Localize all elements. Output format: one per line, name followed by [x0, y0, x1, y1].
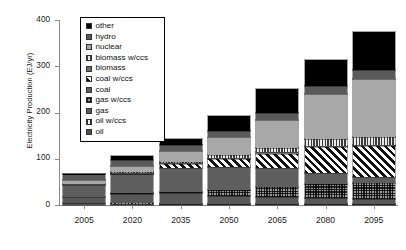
x-axis-tick-label: 2080 [302, 215, 350, 225]
bar-segment-nuclear [63, 180, 105, 185]
bar-segment-hydro [160, 145, 202, 151]
bar-2005 [63, 174, 105, 205]
legend-item-other: other [86, 21, 160, 32]
legend-swatch-icon [86, 108, 92, 114]
x-axis-tick-mark [181, 205, 182, 209]
legend-swatch-icon [86, 76, 92, 82]
bar-segment-other [256, 89, 298, 112]
legend-item-label: oil [96, 127, 104, 138]
bar-segment-biomass-w-ccs [160, 162, 202, 163]
bar-segment-gas-w-ccs [160, 192, 202, 194]
legend-swatch-icon [86, 97, 92, 103]
x-axis-tick-mark [374, 205, 375, 209]
bar-segment-other [111, 156, 153, 159]
bar-segment-gas-w-ccs [256, 187, 298, 197]
bar-segment-coal-w-ccs [160, 164, 202, 167]
legend-item-oil: oil [86, 127, 160, 138]
legend-item-label: coal [96, 85, 111, 96]
legend-item-coal: coal [86, 85, 160, 96]
legend-item-label: biomass w/ccs [96, 53, 149, 64]
bar-2095 [353, 32, 395, 205]
legend-item-coal-w-ccs: coal w/ccs [86, 74, 160, 85]
legend-item-label: other [96, 21, 114, 32]
legend-item-label: biomass [96, 63, 126, 74]
legend-swatch-icon [86, 23, 92, 29]
legend-swatch-icon [86, 87, 92, 93]
bar-segment-gas [208, 196, 250, 203]
legend-swatch-icon [86, 66, 92, 72]
bar-segment-coal [160, 168, 202, 192]
y-axis-tick-label: 400 [16, 15, 50, 24]
bar-segment-coal [63, 185, 105, 197]
legend-item-biomass: biomass [86, 63, 160, 74]
bar-segment-gas-w-ccs [111, 193, 153, 194]
legend-item-label: gas w/ccs [96, 95, 132, 106]
x-axis-tick-label: 2005 [60, 215, 108, 225]
bar-segment-hydro [353, 70, 395, 78]
bar-segment-biomass [256, 152, 298, 153]
bar-segment-biomass-w-ccs [353, 137, 395, 144]
chart-container: Electricity Production (EJ/yr) 010020030… [0, 0, 406, 250]
legend-swatch-icon [86, 55, 92, 61]
legend-item-gas: gas [86, 106, 160, 117]
bar-segment-coal-w-ccs [208, 159, 250, 166]
legend-item-gas-w-ccs: gas w/ccs [86, 95, 160, 106]
bar-segment-biomass-w-ccs [305, 139, 347, 145]
legend-item-label: hydro [96, 32, 116, 43]
bar-segment-biomass [160, 163, 202, 164]
legend-item-hydro: hydro [86, 32, 160, 43]
bar-segment-other [63, 174, 105, 175]
bar-2020 [111, 156, 153, 205]
bar-segment-nuclear [305, 94, 347, 139]
bar-segment-gas [63, 197, 105, 203]
legend-item-nuclear: nuclear [86, 42, 160, 53]
bar-segment-nuclear [256, 120, 298, 148]
legend-item-label: gas [96, 106, 109, 117]
y-axis-tick-label: 100 [16, 153, 50, 162]
bar-segment-coal [305, 173, 347, 184]
legend-swatch-icon [86, 129, 92, 135]
bar-segment-biomass [305, 146, 347, 147]
bar-segment-nuclear [353, 79, 395, 138]
bar-segment-hydro [208, 131, 250, 138]
bar-segment-gas [160, 193, 202, 203]
legend-swatch-icon [86, 34, 92, 40]
y-axis-tick-labels: 0100200300400 [0, 0, 58, 250]
x-axis-tick-label: 2050 [205, 215, 253, 225]
legend-swatch-icon [86, 119, 92, 125]
x-axis-tick-label: 2020 [108, 215, 156, 225]
x-axis-tick-mark [229, 205, 230, 209]
y-axis-tick-label: 0 [16, 200, 50, 209]
bar-segment-hydro [63, 174, 105, 179]
bar-segment-biomass-w-ccs [208, 155, 250, 158]
x-axis-tick-mark [277, 205, 278, 209]
bar-segment-coal-w-ccs [305, 147, 347, 173]
bar-segment-biomass [353, 145, 395, 146]
bar-segment-nuclear [111, 166, 153, 172]
bar-2065 [256, 89, 298, 205]
bar-segment-biomass [208, 158, 250, 159]
bar-segment-coal [353, 177, 395, 183]
bar-segment-coal-w-ccs [256, 154, 298, 169]
x-axis-tick-mark [326, 205, 327, 209]
bar-segment-hydro [111, 160, 153, 166]
legend-item-label: oil w/ccs [96, 116, 127, 127]
chart-legend: otherhydronuclearbiomass w/ccsbiomasscoa… [80, 17, 165, 142]
bar-segment-gas-w-ccs [353, 183, 395, 199]
x-axis-tick-label: 2065 [253, 215, 301, 225]
bar-segment-gas-w-ccs [208, 190, 250, 196]
bar-segment-nuclear [208, 138, 250, 156]
bar-segment-biomass-w-ccs [256, 148, 298, 153]
bar-segment-other [208, 116, 250, 131]
bar-2080 [305, 60, 347, 205]
y-axis-tick-label: 200 [16, 107, 50, 116]
x-axis-tick-label: 2035 [157, 215, 205, 225]
legend-item-label: coal w/ccs [96, 74, 133, 85]
bar-segment-hydro [305, 86, 347, 94]
bar-segment-coal [111, 174, 153, 193]
legend-item-biomass-w-ccs: biomass w/ccs [86, 53, 160, 64]
y-axis-tick-label: 300 [16, 61, 50, 70]
legend-swatch-icon [86, 44, 92, 50]
bar-segment-gas [353, 199, 395, 204]
bar-segment-gas [256, 197, 298, 203]
